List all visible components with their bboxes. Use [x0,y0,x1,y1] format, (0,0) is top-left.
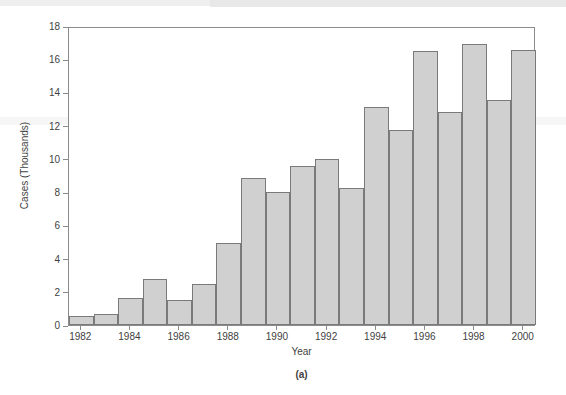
bar [315,159,340,325]
y-tick-label: 6 [54,220,60,232]
bar [438,112,463,325]
y-tick-label: 18 [49,21,60,33]
bar [462,44,487,325]
y-tick-label: 4 [54,254,60,266]
bar [216,243,241,325]
y-tick: 8 [0,187,68,199]
x-tick-mark [424,326,425,330]
bar [511,50,536,325]
y-tick: 18 [0,21,68,33]
bar [364,107,389,325]
x-axis-title: Year [68,346,535,357]
bar [241,178,266,325]
x-tick-label: 2000 [493,331,553,342]
x-tick-mark [326,326,327,330]
bar [389,130,414,325]
bar [339,188,364,325]
bar [167,300,192,325]
y-tick: 6 [0,220,68,232]
y-tick-label: 16 [49,54,60,66]
bar [94,314,119,325]
x-tick-mark [80,326,81,330]
x-tick-mark [473,326,474,330]
bar [192,284,217,325]
bar-series [69,28,534,325]
y-tick-label: 8 [54,187,60,199]
bar [118,298,143,325]
bar-chart-figure: Cases (Thousands) 024681012141618 198219… [0,0,566,395]
x-tick-mark [178,326,179,330]
x-tick-mark [129,326,130,330]
y-tick: 4 [0,254,68,266]
bar [266,192,291,325]
y-tick: 2 [0,287,68,299]
x-tick-mark [227,326,228,330]
x-tick-mark [522,326,523,330]
plot-area [68,27,535,326]
bar [413,51,438,325]
y-tick-label: 10 [49,154,60,166]
y-tick: 16 [0,54,68,66]
bar [290,166,315,325]
y-tick: 12 [0,121,68,133]
bar [143,279,168,326]
bar [487,100,512,325]
y-tick-label: 14 [49,87,60,99]
x-tick-mark [276,326,277,330]
x-tick-mark [375,326,376,330]
y-tick: 14 [0,87,68,99]
y-tick-label: 12 [49,121,60,133]
bar [69,316,94,325]
figure-caption: (a) [68,369,535,380]
y-tick-label: 2 [54,287,60,299]
y-tick: 10 [0,154,68,166]
